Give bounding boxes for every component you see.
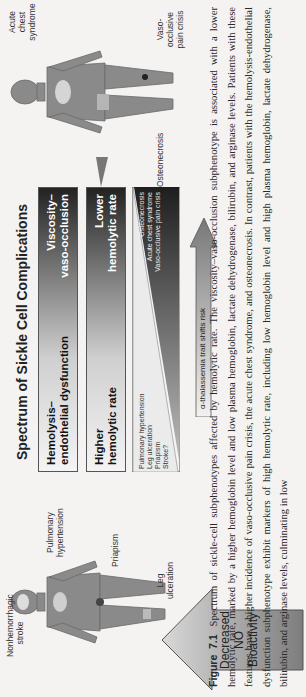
right-body-figure: Acute chest syndrome Osteonecrosis Vaso-… [5,2,180,182]
bar-right-label: Viscosity– vaso-occlusion [45,194,71,278]
subphenotype-bar: Hemolysis– endothelial dysfunction Visco… [38,187,78,472]
figure-title: Spectrum of Sickle Cell Complications [14,202,30,462]
bar-right-label: Lower hemolytic rate [93,194,119,272]
label-nonhemorrhagic-stroke: Nonhemorrhagic stroke [5,609,25,657]
hemolysis-complications-list: Pulmonary hypertension Leg ulceration Pr… [138,394,170,470]
human-body-icon [5,477,175,657]
hemolytic-rate-bar: Higher hemolytic rate Lower hemolytic ra… [86,187,126,472]
figure-caption: Figure 7.1Spectrum of sickle-cell subphe… [205,7,293,687]
caption-text: Spectrum of sickle-cell subphenotypes af… [208,7,289,687]
label-acute-chest-syndrome: Acute chest syndrome [7,2,37,42]
label-pulmonary-hypertension: Pulmonary hypertension [45,508,65,557]
left-body-figure: Nonhemorrhagic stroke Pulmonary hyperten… [5,477,175,657]
vaso-occlusion-complications-list: Osteonecrosis Acute chest syndrome Vaso-… [138,192,162,272]
label-leg-ulceration: Leg ulceration [155,562,175,599]
bar-left-label: Hemolysis– endothelial dysfunction [45,336,71,465]
label-priapism: Priapism [110,534,120,567]
bar-left-label: Higher hemolytic rate [93,387,119,465]
figure-label: Figure 7.1 [207,634,219,687]
label-vaso-occlusive-pain-crisis: Vaso-occlusive pain crisis [155,2,185,57]
rotated-page: Decreased NO Bioactivity Nonhemorrhagic … [0,0,306,697]
label-osteonecrosis: Osteonecrosis [155,133,165,187]
complications-wedge: Pulmonary hypertension Leg ulceration Pr… [132,187,180,472]
